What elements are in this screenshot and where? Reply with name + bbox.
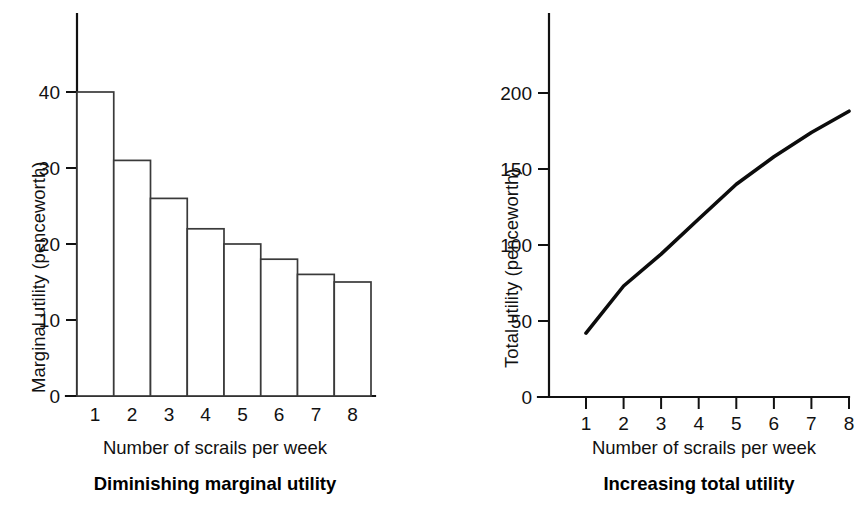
x-tick-label-4: 4	[693, 413, 704, 430]
y-axis-ticks	[538, 93, 549, 397]
bar-5	[224, 244, 261, 396]
x-tick-label-1: 1	[90, 404, 101, 425]
bar-6	[261, 259, 298, 396]
total-utility-curve	[586, 111, 849, 333]
x-tick-label-4: 4	[200, 404, 211, 425]
x-tick-label-2: 2	[127, 404, 138, 425]
y-tick-label-0: 0	[49, 386, 60, 407]
x-tick-label-7: 7	[311, 404, 322, 425]
y-tick-label-200: 200	[500, 83, 532, 104]
x-tick-label-7: 7	[806, 413, 817, 430]
y-tick-label-40: 40	[39, 82, 60, 103]
bar-4	[187, 229, 224, 396]
x-axis-ticks	[586, 397, 849, 409]
x-tick-label-8: 8	[347, 404, 358, 425]
x-axis-title: Number of scrails per week	[55, 437, 375, 459]
x-tick-label-6: 6	[274, 404, 285, 425]
y-axis-ticks	[66, 92, 77, 396]
figure-page: 0 10 20 30 40 1 2 3 4 5 6 7	[0, 0, 858, 517]
x-tick-label-5: 5	[237, 404, 248, 425]
bar-chart-plot: 0 10 20 30 40 1 2 3 4 5 6 7	[0, 0, 429, 430]
bar-2	[114, 160, 151, 396]
x-axis-title: Number of scrails per week	[554, 437, 854, 459]
chart-panel-marginal-utility: 0 10 20 30 40 1 2 3 4 5 6 7	[0, 0, 429, 517]
x-tick-label-1: 1	[581, 413, 592, 430]
x-tick-label-2: 2	[618, 413, 629, 430]
y-axis-title: Total utility (penceworth)	[501, 169, 523, 368]
x-tick-label-5: 5	[731, 413, 742, 430]
figure-caption: Increasing total utility	[549, 473, 849, 495]
line-chart-plot: 0 50 100 150 200 1 2 3 4 5	[429, 0, 858, 430]
x-tick-label-6: 6	[769, 413, 780, 430]
figure-caption: Diminishing marginal utility	[45, 473, 385, 495]
x-tick-label-3: 3	[164, 404, 175, 425]
x-tick-label-8: 8	[844, 413, 855, 430]
bar-7	[298, 274, 335, 396]
bar-series	[77, 92, 371, 396]
y-axis-title: Marginal utility (penceworth)	[28, 162, 50, 393]
bar-1	[77, 92, 114, 396]
chart-panel-total-utility: 0 50 100 150 200 1 2 3 4 5	[429, 0, 858, 517]
y-tick-label-0: 0	[521, 387, 532, 408]
bar-8	[334, 282, 371, 396]
x-tick-label-3: 3	[656, 413, 667, 430]
bar-3	[151, 198, 188, 396]
